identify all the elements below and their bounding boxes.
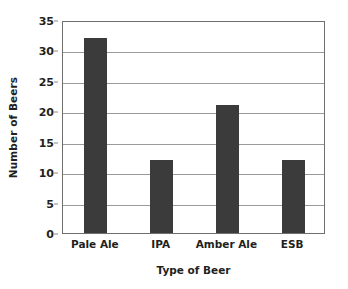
y-tick-label: 25 bbox=[39, 76, 54, 87]
bar bbox=[216, 105, 239, 233]
x-axis-title: Type of Beer bbox=[62, 264, 325, 276]
y-tick-mark bbox=[54, 173, 58, 174]
bar-chart: Number of Beers 05101520253035 Pale AleI… bbox=[0, 0, 348, 289]
y-tick-mark bbox=[54, 142, 58, 143]
y-tick-label: 15 bbox=[39, 137, 54, 148]
y-tick-mark bbox=[54, 21, 58, 22]
y-tick-label: 10 bbox=[39, 168, 54, 179]
y-tick-mark bbox=[54, 81, 58, 82]
y-tick-mark bbox=[54, 203, 58, 204]
x-tick-label: ESB bbox=[281, 238, 304, 251]
x-axis-tick-labels: Pale AleIPAAmber AleESB bbox=[62, 238, 325, 256]
y-tick-label: 35 bbox=[39, 16, 54, 27]
y-tick-label: 30 bbox=[39, 46, 54, 57]
x-tick-label: Amber Ale bbox=[196, 238, 257, 251]
bar bbox=[84, 38, 107, 233]
y-tick-mark bbox=[54, 112, 58, 113]
y-axis-title: Number of Beers bbox=[4, 21, 22, 234]
plot-area bbox=[62, 21, 325, 234]
y-tick-mark bbox=[54, 234, 58, 235]
bars bbox=[63, 22, 324, 233]
bar bbox=[282, 160, 305, 233]
y-tick-label: 0 bbox=[46, 229, 54, 240]
y-tick-mark bbox=[54, 51, 58, 52]
y-tick-label: 5 bbox=[46, 198, 54, 209]
x-tick-label: Pale Ale bbox=[71, 238, 119, 251]
y-axis-tick-labels: 05101520253035 bbox=[28, 21, 58, 234]
x-tick-label: IPA bbox=[151, 238, 170, 251]
y-tick-label: 20 bbox=[39, 107, 54, 118]
bar bbox=[150, 160, 173, 233]
